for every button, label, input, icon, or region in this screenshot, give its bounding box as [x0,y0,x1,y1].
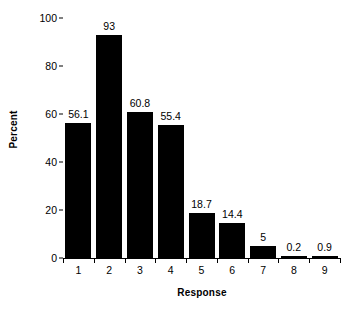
plot-area [63,18,340,258]
bar-value-label: 56.1 [48,109,108,120]
bar-value-label: 0.9 [295,242,353,253]
bar-value-label: 60.8 [110,98,170,109]
x-tick-mark [155,259,156,263]
x-axis-line [63,258,341,259]
x-tick-mark [186,259,187,263]
bar [65,123,91,258]
bar-value-label: 55.4 [141,111,201,122]
x-tick-mark [248,259,249,263]
x-tick-mark [309,259,310,263]
bar [127,112,153,258]
x-tick-label: 9 [295,265,353,276]
y-axis-title: Percent [0,0,26,258]
bar [158,125,184,258]
bar [96,35,122,258]
y-tick-label: 40 [17,157,57,168]
bar-value-label: 93 [79,21,139,32]
y-tick-label: 100 [17,13,57,24]
x-tick-mark [125,259,126,263]
y-tick-label: 20 [17,205,57,216]
x-tick-mark [94,259,95,263]
x-tick-mark [340,259,341,263]
y-tick-label: 0 [17,253,57,264]
x-tick-mark [63,259,64,263]
bar-value-label: 14.4 [202,209,262,220]
x-tick-mark [217,259,218,263]
bar-value-label: 5 [233,232,293,243]
x-axis-title: Response [63,287,341,298]
y-tick-label: 80 [17,61,57,72]
x-tick-mark [278,259,279,263]
bar-chart: Percent 020406080100 123456789 Response … [0,0,353,314]
